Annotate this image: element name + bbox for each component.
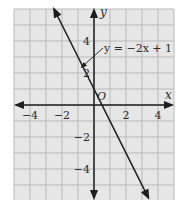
x-axis-label: x	[165, 88, 172, 102]
y-tick-label: 2	[83, 67, 90, 80]
x-tick-label: 4	[155, 109, 162, 122]
y-axis-label: y	[99, 5, 107, 19]
y-tick-label: −4	[74, 163, 90, 176]
coordinate-plane: x y O y = −2x + 1 −4−22442−2−4	[0, 0, 183, 206]
equation-label: y = −2x + 1	[103, 42, 172, 55]
origin-label: O	[97, 90, 106, 103]
y-tick-label: −2	[74, 131, 90, 144]
y-tick-label: 4	[83, 35, 90, 48]
x-tick-label: −2	[54, 109, 70, 122]
x-tick-label: 2	[123, 109, 130, 122]
x-tick-label: −4	[22, 109, 38, 122]
